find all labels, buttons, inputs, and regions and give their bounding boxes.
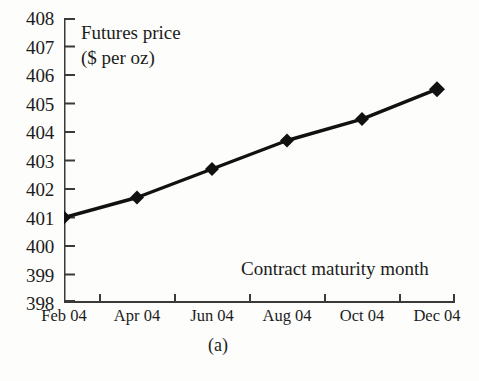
data-point-marker	[355, 112, 369, 126]
x-axis-tick-label: Jun 04	[190, 306, 234, 326]
x-axis-tick-label: Oct 04	[340, 306, 384, 326]
figure-container: 408 407 406 405 404 403 402 401 400 399 …	[0, 0, 479, 381]
x-axis-tick-label: Dec 04	[413, 306, 460, 326]
y-axis-tick-label: 404	[8, 123, 54, 142]
y-axis-tick-label: 403	[8, 152, 54, 171]
data-point-marker	[64, 211, 71, 225]
x-axis-tick-label: Aug 04	[262, 306, 311, 326]
y-axis-title-line-2: ($ per oz)	[81, 45, 181, 70]
x-axis-tick-label: Apr 04	[114, 306, 160, 326]
data-point-marker	[429, 81, 445, 97]
x-axis-tick-marks	[100, 294, 454, 302]
y-axis-tick-label: 402	[8, 180, 54, 199]
data-point-marker	[280, 134, 294, 148]
y-axis-title-line-1: Futures price	[81, 20, 181, 45]
y-axis-tick-label: 407	[8, 38, 54, 57]
y-axis-tick-label: 399	[8, 266, 54, 285]
y-axis-tick-marks	[65, 19, 75, 301]
y-axis-tick-label: 408	[8, 9, 54, 28]
figure-caption-text: (a)	[208, 334, 228, 356]
y-axis-tick-label: 401	[8, 209, 54, 228]
y-axis-tick-label: 400	[8, 237, 54, 256]
data-point-marker	[205, 162, 219, 176]
y-axis-tick-label: 405	[8, 95, 54, 114]
series-line-futures-price	[64, 89, 437, 217]
figure-caption: (a)	[0, 334, 479, 356]
x-axis-tick-label-group: Feb 04 Apr 04 Jun 04 Aug 04 Oct 04 Dec 0…	[64, 306, 455, 332]
data-point-marker	[130, 191, 144, 205]
x-axis-tick-label: Feb 04	[41, 306, 86, 326]
x-axis-title: Contract maturity month	[241, 258, 429, 280]
y-axis-tick-label: 406	[8, 66, 54, 85]
y-axis-title: Futures price ($ per oz)	[81, 20, 181, 70]
